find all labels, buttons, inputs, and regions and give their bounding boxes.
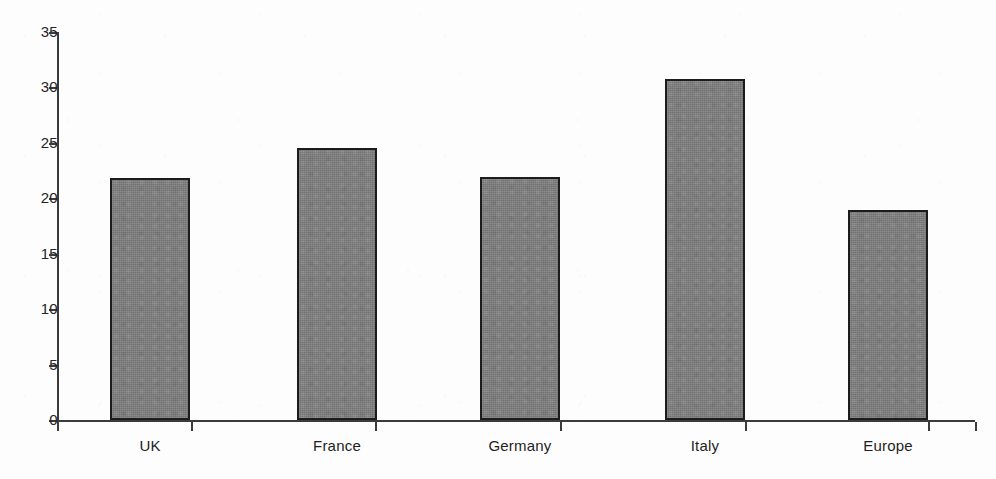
x-label-germany: Germany (460, 438, 580, 453)
x-tick-mark (975, 422, 977, 431)
x-tick-mark (191, 422, 193, 431)
x-tick-mark (560, 422, 562, 431)
x-label-france: France (277, 438, 397, 453)
x-label-europe: Europe (828, 438, 948, 453)
y-tick-label: 0 (14, 412, 58, 427)
x-tick-mark (928, 422, 930, 431)
x-label-uk: UK (90, 438, 210, 453)
x-tick-mark (57, 422, 59, 431)
bar-europe (848, 210, 928, 420)
x-tick-mark (375, 422, 377, 431)
bar-germany (480, 177, 560, 420)
y-tick-label: 25 (14, 135, 58, 150)
y-tick-label: 5 (14, 357, 58, 372)
y-tick-label: 30 (14, 79, 58, 94)
bar-italy (665, 79, 745, 420)
x-tick-mark (745, 422, 747, 431)
bar-france (297, 148, 377, 420)
y-tick-label: 10 (14, 301, 58, 316)
y-tick-label: 15 (14, 246, 58, 261)
y-tick-label: 20 (14, 190, 58, 205)
bar-chart-figure: 35302520151050 UKFranceGermanyItalyEurop… (0, 0, 996, 479)
x-axis-line (57, 420, 975, 422)
plot-area: 35302520151050 UKFranceGermanyItalyEurop… (0, 0, 996, 479)
bar-uk (110, 178, 190, 420)
y-tick-label: 35 (14, 24, 58, 39)
x-label-italy: Italy (645, 438, 765, 453)
